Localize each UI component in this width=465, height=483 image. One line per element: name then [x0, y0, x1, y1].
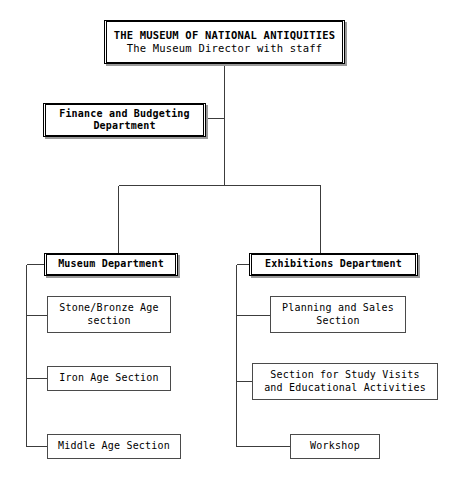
node-stone-bronze-age-section-line2: section [87, 315, 131, 328]
node-stone-bronze-age-section-line1: Stone/Bronze Age [59, 302, 159, 315]
node-finance-budgeting-line2: Department [93, 120, 155, 133]
node-museum-root-line2: The Museum Director with staff [127, 42, 323, 55]
node-study-visits-section-line2: and Educational Activities [264, 382, 426, 395]
node-stone-bronze-age-section[interactable]: Stone/Bronze Age section [47, 296, 171, 333]
node-exhibitions-department-line1: Exhibitions Department [265, 258, 402, 271]
node-workshop[interactable]: Workshop [290, 434, 380, 459]
node-finance-budgeting-line1: Finance and Budgeting [59, 108, 190, 121]
node-finance-budgeting[interactable]: Finance and Budgeting Department [43, 103, 206, 137]
node-middle-age-section[interactable]: Middle Age Section [47, 434, 181, 459]
connector-lines [0, 0, 465, 483]
node-museum-department-line1: Museum Department [58, 258, 164, 271]
node-planning-and-sales-section-line1: Planning and Sales [282, 302, 394, 315]
node-museum-root[interactable]: THE MUSEUM OF NATIONAL ANTIQUITIES The M… [104, 20, 345, 64]
node-museum-root-line1: THE MUSEUM OF NATIONAL ANTIQUITIES [114, 29, 336, 42]
node-museum-department[interactable]: Museum Department [44, 253, 178, 276]
node-middle-age-section-line1: Middle Age Section [58, 440, 170, 453]
node-exhibitions-department[interactable]: Exhibitions Department [249, 253, 418, 276]
node-workshop-line1: Workshop [310, 440, 360, 453]
org-chart: THE MUSEUM OF NATIONAL ANTIQUITIES The M… [0, 0, 465, 483]
node-planning-and-sales-section[interactable]: Planning and Sales Section [270, 296, 406, 333]
node-study-visits-section-line1: Section for Study Visits [270, 369, 419, 382]
node-iron-age-section-line1: Iron Age Section [59, 372, 159, 385]
node-study-visits-section[interactable]: Section for Study Visits and Educational… [252, 363, 438, 400]
node-iron-age-section[interactable]: Iron Age Section [47, 366, 171, 391]
node-planning-and-sales-section-line2: Section [316, 315, 360, 328]
